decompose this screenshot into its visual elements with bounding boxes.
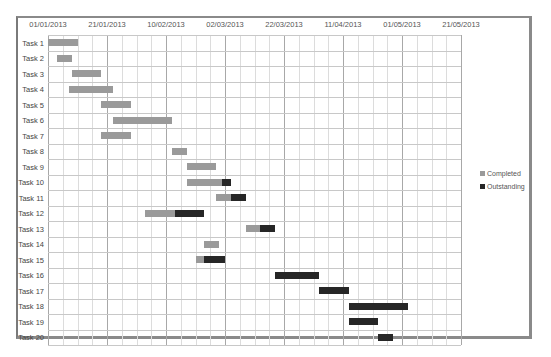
task-label: Task 19: [18, 317, 44, 326]
row-gridline: [48, 237, 461, 238]
row-gridline: [48, 206, 461, 207]
x-tick-label: 11/04/2013: [325, 20, 362, 29]
x-tick-label: 22/03/2013: [265, 20, 303, 29]
x-tick-label: 01/05/2013: [383, 20, 421, 29]
task-label: Task 5: [18, 100, 44, 109]
task-label: Task 1: [18, 38, 44, 47]
major-gridline: [461, 35, 462, 345]
row-gridline: [48, 159, 461, 160]
bar-completed: [69, 86, 113, 93]
task-label: Task 3: [18, 69, 44, 78]
legend-label-outstanding: Outstanding: [487, 183, 525, 190]
row-gridline: [48, 82, 461, 83]
bar-completed: [187, 163, 217, 170]
bar-outstanding: [260, 225, 275, 232]
x-tick-label: 01/01/2013: [29, 20, 67, 29]
row-gridline: [48, 113, 461, 114]
bar-outstanding: [349, 303, 408, 310]
row-gridline: [48, 283, 461, 284]
bar-completed: [187, 179, 222, 186]
completed-swatch-icon: [480, 171, 485, 176]
row-gridline: [48, 175, 461, 176]
task-label: Task 8: [18, 147, 44, 156]
x-tick-label: 21/05/2013: [442, 20, 480, 29]
legend-label-completed: Completed: [487, 170, 521, 177]
x-tick-label: 21/01/2013: [88, 20, 126, 29]
legend-item-outstanding: Outstanding: [480, 183, 525, 190]
x-tick-label: 02/03/2013: [206, 20, 244, 29]
row-gridline: [48, 299, 461, 300]
row-gridline: [48, 51, 461, 52]
task-label: Task 20: [18, 333, 44, 342]
bar-completed: [72, 70, 102, 77]
row-gridline: [48, 345, 461, 346]
bar-outstanding: [231, 194, 246, 201]
outstanding-swatch-icon: [480, 184, 485, 189]
task-label: Task 9: [18, 162, 44, 171]
bar-completed: [204, 241, 219, 248]
bar-completed: [113, 117, 172, 124]
row-gridline: [48, 330, 461, 331]
bar-completed: [246, 225, 261, 232]
task-label: Task 7: [18, 131, 44, 140]
row-gridline: [48, 190, 461, 191]
bar-outstanding: [204, 256, 225, 263]
bar-completed: [196, 256, 205, 263]
task-label: Task 6: [18, 116, 44, 125]
legend-item-completed: Completed: [480, 170, 525, 177]
bar-outstanding: [275, 272, 319, 279]
task-label: Task 17: [18, 286, 44, 295]
task-label: Task 10: [18, 178, 44, 187]
bar-completed: [172, 148, 187, 155]
bar-outstanding: [349, 318, 379, 325]
bar-completed: [216, 194, 231, 201]
row-gridline: [48, 97, 461, 98]
task-label: Task 18: [18, 302, 44, 311]
row-gridline: [48, 35, 461, 36]
row-gridline: [48, 144, 461, 145]
bar-completed: [145, 210, 175, 217]
task-label: Task 15: [18, 255, 44, 264]
bar-completed: [101, 101, 131, 108]
task-label: Task 2: [18, 54, 44, 63]
legend: Completed Outstanding: [480, 170, 525, 196]
row-gridline: [48, 221, 461, 222]
bar-completed: [101, 132, 131, 139]
x-tick-label: 10/02/2013: [147, 20, 185, 29]
plot-area: [48, 35, 461, 345]
task-label: Task 4: [18, 85, 44, 94]
bar-outstanding: [378, 334, 393, 341]
task-label: Task 11: [18, 193, 44, 202]
task-label: Task 14: [18, 240, 44, 249]
task-label: Task 12: [18, 209, 44, 218]
bar-outstanding: [222, 179, 231, 186]
bar-outstanding: [319, 287, 349, 294]
row-gridline: [48, 314, 461, 315]
bar-completed: [57, 55, 72, 62]
bar-completed: [48, 39, 78, 46]
row-gridline: [48, 128, 461, 129]
task-label: Task 16: [18, 271, 44, 280]
task-label: Task 13: [18, 224, 44, 233]
bar-outstanding: [175, 210, 205, 217]
row-gridline: [48, 66, 461, 67]
row-gridline: [48, 268, 461, 269]
row-gridline: [48, 252, 461, 253]
